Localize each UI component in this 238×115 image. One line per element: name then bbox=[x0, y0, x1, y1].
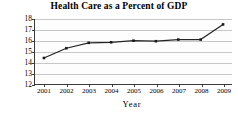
series-data-point bbox=[222, 23, 225, 26]
y-tick-label: 15 bbox=[25, 48, 33, 56]
x-tick-label: 2008 bbox=[195, 88, 209, 95]
y-tick-label: 13 bbox=[25, 70, 33, 78]
series-data-point bbox=[132, 39, 135, 42]
x-tick-label: 2002 bbox=[60, 88, 74, 95]
y-tick-label: 16 bbox=[25, 37, 33, 45]
x-tick-label: 2009 bbox=[217, 88, 231, 95]
y-tick-label: 14 bbox=[25, 59, 33, 67]
series-data-point bbox=[177, 38, 180, 41]
y-tick-label: 17 bbox=[25, 26, 33, 34]
x-tick-label: 2004 bbox=[105, 88, 119, 95]
chart-figure: Health Care as a Percent of GDP Percenta… bbox=[0, 0, 238, 115]
data-series-layer bbox=[35, 19, 232, 84]
x-tick-label: 2001 bbox=[37, 88, 51, 95]
y-tick-label: 18 bbox=[25, 15, 33, 23]
plot-area: 12131415161718 2001200220032004200520062… bbox=[34, 19, 232, 85]
x-axis-title: Year bbox=[32, 99, 232, 109]
series-data-point bbox=[87, 42, 90, 45]
x-tick-label: 2007 bbox=[172, 88, 186, 95]
x-tick-label: 2003 bbox=[82, 88, 96, 95]
series-data-point bbox=[199, 38, 202, 41]
series-data-point bbox=[65, 47, 68, 50]
series-data-point bbox=[110, 41, 113, 44]
x-tick-label: 2005 bbox=[127, 88, 141, 95]
series-data-point bbox=[155, 40, 158, 43]
series-data-point bbox=[43, 57, 46, 60]
y-tick-label: 12 bbox=[25, 81, 33, 89]
series-markers bbox=[43, 23, 225, 59]
x-tick-label: 2006 bbox=[150, 88, 164, 95]
chart-title: Health Care as a Percent of GDP bbox=[0, 1, 238, 11]
